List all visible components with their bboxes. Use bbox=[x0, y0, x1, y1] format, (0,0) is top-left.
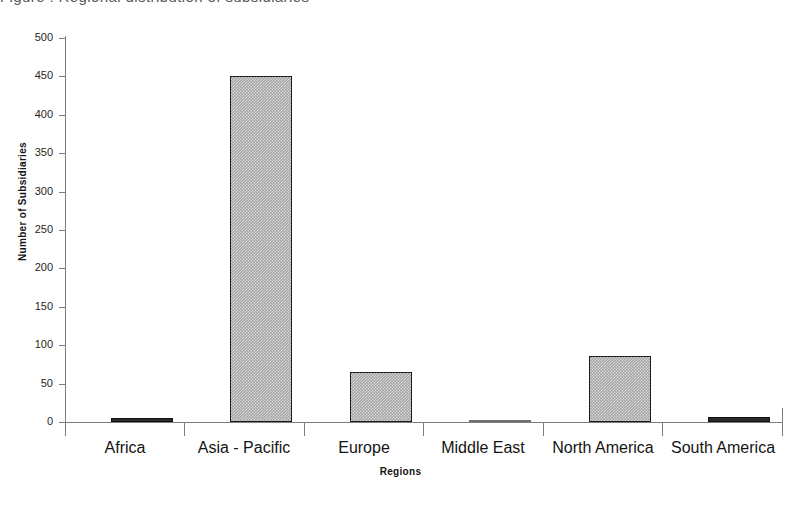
x-axis-tick bbox=[423, 422, 424, 436]
y-axis-tick bbox=[59, 307, 66, 308]
x-axis-tick bbox=[304, 422, 305, 436]
x-axis-tick bbox=[184, 422, 185, 436]
y-axis-tick-label: 150 bbox=[35, 301, 53, 312]
x-axis-tick bbox=[543, 422, 544, 436]
x-axis-tick bbox=[662, 422, 663, 436]
y-axis-title: Number of Subsidiaries bbox=[17, 112, 28, 292]
bar-asia-pacific[interactable] bbox=[230, 76, 292, 422]
x-axis-category-label-africa: Africa bbox=[65, 438, 185, 457]
x-axis-category-label-middle-east: Middle East bbox=[423, 438, 543, 457]
x-axis-title: Regions bbox=[0, 466, 801, 477]
bar-chart-figure: 500 450 400 350 300 250 200 150 100 50 0… bbox=[0, 0, 801, 509]
x-axis-tick bbox=[65, 422, 66, 436]
y-axis-tick bbox=[59, 384, 66, 385]
x-axis-category-label-south-america: South America bbox=[662, 438, 784, 457]
y-axis-tick bbox=[59, 268, 66, 269]
y-axis-tick-label: 50 bbox=[41, 378, 53, 389]
y-axis-tick bbox=[59, 76, 66, 77]
bar-middle-east[interactable] bbox=[469, 420, 531, 422]
x-axis-category-label-north-america: North America bbox=[543, 438, 663, 457]
y-axis-tick bbox=[59, 153, 66, 154]
y-axis-tick-label: 300 bbox=[35, 186, 53, 197]
y-axis-tick-label: 200 bbox=[35, 262, 53, 273]
y-axis-tick-label: 450 bbox=[35, 70, 53, 81]
y-axis-tick-label: 0 bbox=[47, 416, 53, 427]
y-axis-tick-label: 350 bbox=[35, 147, 53, 158]
y-axis-tick-label: 250 bbox=[35, 224, 53, 235]
y-axis-tick-label: 100 bbox=[35, 339, 53, 350]
y-axis-tick-label: 400 bbox=[35, 109, 53, 120]
plot-area bbox=[66, 38, 782, 422]
x-axis-category-label-europe: Europe bbox=[304, 438, 424, 457]
x-axis-line bbox=[65, 422, 783, 423]
bar-south-america[interactable] bbox=[708, 417, 770, 422]
bar-north-america[interactable] bbox=[589, 356, 651, 422]
y-axis-tick bbox=[59, 115, 66, 116]
y-axis-tick bbox=[59, 38, 66, 39]
bar-europe[interactable] bbox=[350, 372, 412, 422]
x-axis-category-label-asia-pacific: Asia - Pacific bbox=[184, 438, 304, 457]
y-axis-tick bbox=[59, 230, 66, 231]
y-axis-tick bbox=[59, 192, 66, 193]
y-axis-tick-label: 500 bbox=[35, 32, 53, 43]
x-axis-end-tick bbox=[782, 408, 783, 423]
x-axis-tick bbox=[782, 422, 783, 436]
bar-africa[interactable] bbox=[111, 418, 173, 422]
y-axis-tick bbox=[59, 345, 66, 346]
